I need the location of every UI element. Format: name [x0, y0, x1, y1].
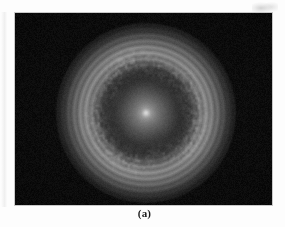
central-bright-point	[141, 109, 150, 118]
figure-caption: (a)	[0, 207, 285, 219]
left-margin-streak-artifact-icon	[1, 12, 7, 207]
figure-image-panel	[14, 12, 273, 206]
scattering-pattern	[56, 23, 236, 203]
figure-root: (a)	[0, 0, 285, 227]
speckle-pattern-image	[15, 13, 272, 205]
